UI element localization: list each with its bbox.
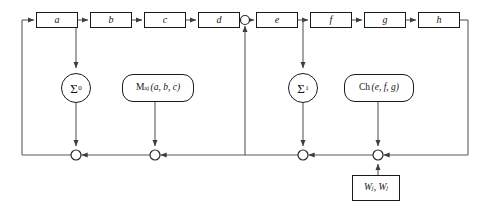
sigma-1-adder[interactable]: Σ1: [288, 73, 318, 103]
state-register-d-label: d: [217, 15, 222, 25]
sigma-1-subscript: 1: [305, 85, 309, 92]
state-register-h[interactable]: h: [418, 12, 460, 28]
sha-round-diagram: a b c d e f g h Σ0 Σ1 Maj(a, b, c) Ch(e,…: [0, 0, 486, 210]
maj-function-name: M: [136, 83, 144, 93]
state-register-e[interactable]: e: [256, 12, 298, 28]
ch-function-args: (e, f, g): [370, 83, 399, 93]
sigma-1-symbol: Σ: [297, 82, 305, 95]
state-register-f[interactable]: f: [310, 12, 352, 28]
state-register-g[interactable]: g: [364, 12, 406, 28]
junction-bus-sigma1: [298, 150, 308, 160]
state-register-b[interactable]: b: [90, 12, 132, 28]
wiring-layer: [0, 0, 486, 210]
state-register-d[interactable]: d: [198, 12, 240, 28]
state-register-c-label: c: [163, 15, 167, 25]
majority-function-box[interactable]: Maj(a, b, c): [122, 74, 194, 102]
state-register-a-label: a: [55, 15, 60, 25]
state-register-c[interactable]: c: [144, 12, 186, 28]
state-register-g-label: g: [383, 15, 388, 25]
junction-top-split: [241, 16, 250, 25]
state-register-a[interactable]: a: [36, 12, 78, 28]
state-register-e-label: e: [275, 15, 279, 25]
round-constant-box[interactable]: Wj, Wj: [352, 175, 400, 201]
ch-function-name: Ch: [359, 83, 370, 93]
state-register-f-label: f: [330, 15, 333, 25]
state-register-b-label: b: [109, 15, 114, 25]
junction-bus-maj: [150, 150, 160, 160]
sigma-0-adder[interactable]: Σ0: [61, 73, 91, 103]
round-constant-sub2: j: [386, 185, 388, 192]
round-constant-label: W: [364, 183, 372, 193]
choice-function-box[interactable]: Ch(e, f, g): [344, 74, 414, 102]
sigma-0-symbol: Σ: [70, 82, 78, 95]
state-register-h-label: h: [437, 15, 442, 25]
maj-function-args: (a, b, c): [149, 83, 180, 93]
sigma-0-subscript: 0: [78, 85, 82, 92]
junction-bus-sigma0: [71, 150, 81, 160]
junction-bus-ch: [373, 150, 383, 160]
